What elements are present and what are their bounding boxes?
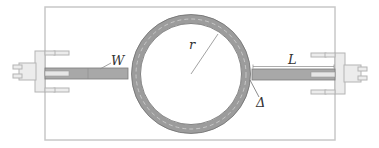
right-feedline <box>252 69 335 80</box>
length-label: L <box>288 53 297 66</box>
left-feedline <box>45 68 128 79</box>
gap-label: Δ <box>256 96 265 109</box>
width-label: W <box>111 54 124 67</box>
radius-label: r <box>189 38 195 51</box>
ring-resonator-diagram: W r L Δ <box>0 0 379 148</box>
